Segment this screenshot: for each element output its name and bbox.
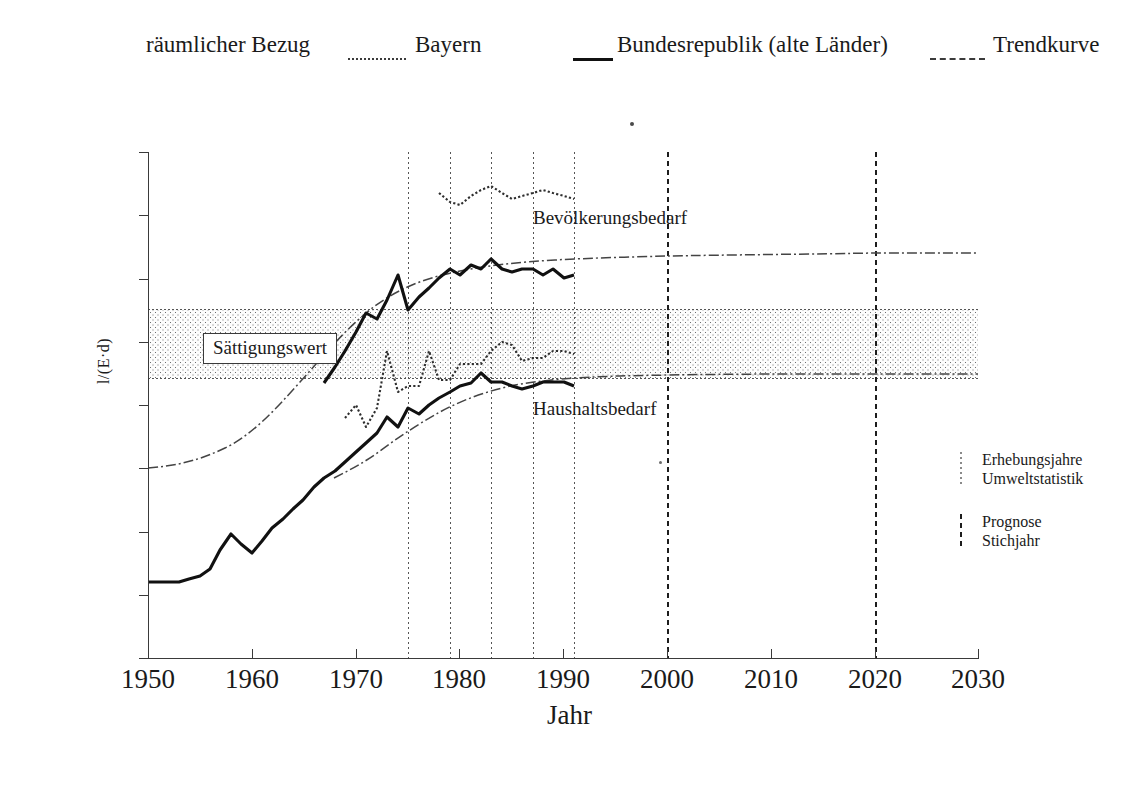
x-axis (148, 658, 979, 659)
x-axis-label-1990: 1990 (513, 664, 613, 695)
saturation-value-label: Sättigungswert (203, 333, 337, 364)
y-axis-title: l/(E·d) (95, 291, 113, 431)
curve-bayern-bevoelkerungsbedarf (439, 186, 574, 205)
x-tick-2020 (875, 649, 876, 658)
x-tick-1990 (563, 649, 564, 658)
x-axis-label-2000: 2000 (617, 664, 717, 695)
y-tick-100 (139, 532, 148, 533)
y-tick-120 (139, 468, 148, 469)
x-tick-1950 (148, 649, 149, 658)
dashed-line-icon (960, 514, 962, 548)
x-tick-1970 (356, 649, 357, 658)
curve-bundesrepublik-bevoelkerungsbedarf (324, 259, 574, 383)
legend-row-erhebungsjahre: Erhebungsjahre Umweltstatistik (952, 450, 1139, 488)
legend-text-erhebungsjahre-line1: Erhebungsjahre (982, 450, 1139, 469)
y-tick-180 (139, 279, 148, 280)
x-axis-label-1970: 1970 (306, 664, 406, 695)
right-legend: Erhebungsjahre Umweltstatistik Prognose … (952, 450, 1139, 574)
y-tick-160 (139, 342, 148, 343)
curve-label-bevoelkerungsbedarf: Bevölkerungsbedarf (533, 207, 687, 229)
legend-text-prognose-line2: Stichjahr (982, 531, 1139, 550)
y-tick-200 (139, 215, 148, 216)
x-axis-label-2020: 2020 (825, 664, 925, 695)
x-axis-title: Jahr (0, 700, 1139, 731)
x-axis-label-1960: 1960 (202, 664, 302, 695)
x-axis-label-1950: 1950 (98, 664, 198, 695)
y-tick-60 (139, 658, 148, 659)
y-tick-80 (139, 595, 148, 596)
curve-label-haushaltsbedarf: Haushaltsbedarf (533, 398, 656, 420)
dotted-line-icon (960, 452, 962, 486)
x-axis-label-2010: 2010 (721, 664, 821, 695)
x-axis-label-1980: 1980 (409, 664, 509, 695)
y-axis (148, 152, 149, 659)
y-tick-220 (139, 152, 148, 153)
x-tick-2030 (978, 649, 979, 658)
legend-text-prognose-line1: Prognose (982, 512, 1139, 531)
scan-artifact-speck (630, 122, 634, 126)
x-tick-2010 (771, 649, 772, 658)
x-tick-1980 (459, 649, 460, 658)
x-axis-label-2030: 2030 (928, 664, 1028, 695)
legend-text-erhebungsjahre-line2: Umweltstatistik (982, 469, 1139, 488)
x-tick-1960 (252, 649, 253, 658)
scan-artifact-speck-2 (659, 461, 662, 464)
y-tick-140 (139, 405, 148, 406)
curve-trend-haushaltsbedarf (334, 374, 978, 478)
curve-bundesrepublik-haushaltsbedarf (148, 373, 574, 582)
x-tick-2000 (667, 649, 668, 658)
legend-row-prognose: Prognose Stichjahr (952, 512, 1139, 550)
